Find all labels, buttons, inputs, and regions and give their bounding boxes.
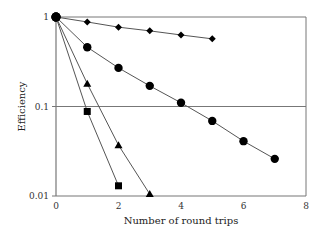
diamond-marker xyxy=(209,35,216,42)
origin-marker xyxy=(52,13,61,22)
circle-marker xyxy=(114,64,122,72)
circle-marker xyxy=(146,82,154,90)
circle-marker xyxy=(177,99,185,107)
diamond-marker xyxy=(178,31,185,38)
circle-marker xyxy=(239,137,247,145)
y-tick-label: 1 xyxy=(43,12,49,22)
x-tick-label: 2 xyxy=(116,201,122,211)
efficiency-chart: 0.010.1102468Number of round tripsEffici… xyxy=(0,0,322,231)
x-tick-label: 4 xyxy=(178,201,184,211)
square-line xyxy=(56,17,119,186)
circle-marker xyxy=(208,117,216,125)
diamond-marker xyxy=(84,18,91,25)
x-tick-label: 8 xyxy=(303,201,309,211)
square-marker xyxy=(84,108,91,115)
square-marker xyxy=(115,182,122,189)
diamond-marker xyxy=(115,24,122,31)
diamond-line xyxy=(56,17,212,39)
y-axis-label: Efficiency xyxy=(16,81,27,131)
circle-marker xyxy=(271,155,279,163)
x-tick-label: 0 xyxy=(53,201,59,211)
triangle-marker xyxy=(115,141,123,148)
y-tick-label: 0.1 xyxy=(35,102,49,112)
circle-marker xyxy=(83,43,91,51)
x-axis-label: Number of round trips xyxy=(124,215,239,226)
diamond-marker xyxy=(146,27,153,34)
triangle-marker xyxy=(146,190,154,197)
x-tick-label: 6 xyxy=(241,201,247,211)
y-tick-label: 0.01 xyxy=(29,191,49,201)
triangle-marker xyxy=(83,80,91,87)
triangle-line xyxy=(56,17,150,194)
